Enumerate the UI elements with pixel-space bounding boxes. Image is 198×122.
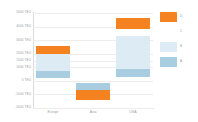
- bar-segment-d-usa: [116, 18, 150, 29]
- legend-item-c[interactable]: C: [160, 27, 198, 38]
- y-tick-label: 5000 TEU: [1, 11, 31, 14]
- y-tick-label: 1500 TEU: [1, 59, 31, 62]
- y-tick-label: 4000 TEU: [1, 25, 31, 28]
- bar-segment-b-usa: [116, 36, 150, 69]
- chart-legend: DCBA: [160, 12, 198, 74]
- legend-item-b[interactable]: B: [160, 42, 198, 53]
- legend-swatch-d: [160, 12, 177, 22]
- bar-segment-d-europe: [36, 46, 70, 54]
- legend-swatch-b: [160, 42, 177, 52]
- legend-swatch-a: [160, 57, 177, 67]
- x-tick-label-europe: Europe: [33, 111, 73, 115]
- gridline: [33, 81, 153, 82]
- legend-label-b: B: [180, 45, 182, 48]
- y-tick-label: 2000 TEU: [1, 52, 31, 55]
- y-tick-label: 3000 TEU: [1, 39, 31, 42]
- gridline: [33, 108, 153, 109]
- y-tick-label: 0 TEU: [1, 79, 31, 82]
- bar-segment-a-usa: [116, 69, 150, 77]
- x-tick-label-usa: USA: [113, 111, 153, 115]
- y-axis-tick-labels: 5000 TEU4000 TEU3000 TEU2000 TEU1500 TEU…: [0, 0, 31, 122]
- bar-segment-a-asia: [76, 83, 110, 90]
- legend-item-a[interactable]: A: [160, 57, 198, 68]
- legend-label-a: A: [180, 60, 182, 63]
- gridline: [33, 13, 153, 14]
- x-tick-label-asia: Asia: [73, 111, 113, 115]
- legend-label-c: C: [180, 30, 182, 33]
- chart-container: 5000 TEU4000 TEU3000 TEU2000 TEU1500 TEU…: [0, 0, 198, 122]
- y-tick-label: 1000 TEU: [1, 66, 31, 69]
- legend-swatch-c: [160, 27, 177, 37]
- legend-item-d[interactable]: D: [160, 12, 198, 23]
- bar-segment-d-asia: [76, 90, 110, 100]
- legend-label-d: D: [180, 15, 182, 18]
- bar-segment-a-europe: [36, 71, 70, 78]
- y-tick-label: -2000 TEU: [1, 106, 31, 109]
- y-tick-label: -1000 TEU: [1, 93, 31, 96]
- bar-segment-b-europe: [36, 54, 70, 72]
